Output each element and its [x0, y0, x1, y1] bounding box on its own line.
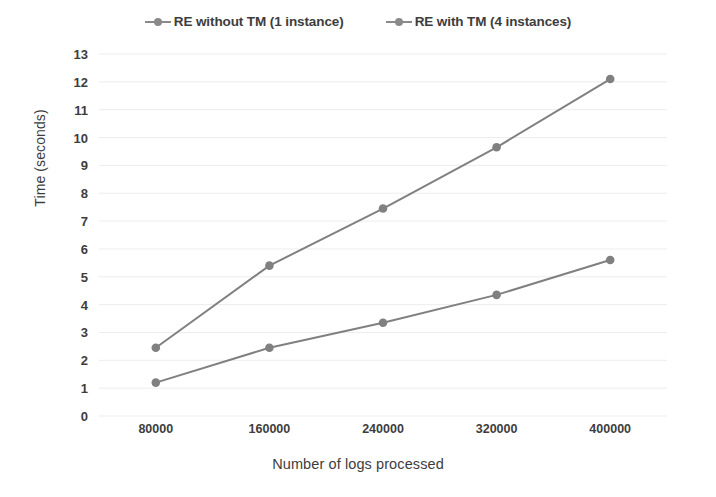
data-point-marker: [606, 75, 615, 84]
data-point-marker: [152, 378, 161, 387]
x-tick-label: 320000: [476, 422, 518, 436]
data-point-marker: [265, 343, 274, 352]
x-tick-label: 160000: [249, 422, 291, 436]
data-point-marker: [606, 256, 615, 265]
plot-svg: [99, 54, 667, 416]
data-point-marker: [379, 318, 388, 327]
series-2: [152, 256, 615, 387]
data-point-marker: [265, 261, 274, 270]
x-tick-label: 80000: [138, 422, 173, 436]
gridlines: [99, 54, 667, 416]
data-point-marker: [379, 204, 388, 213]
x-axis-title: Number of logs processed: [0, 456, 716, 472]
series-line: [156, 79, 610, 348]
x-tick-label: 240000: [362, 422, 404, 436]
line-chart: RE without TM (1 instance) RE with TM (4…: [0, 0, 716, 497]
series-1: [152, 75, 615, 352]
plot-area: [99, 54, 667, 416]
data-point-marker: [152, 343, 161, 352]
x-tick-label: 400000: [589, 422, 631, 436]
data-point-marker: [492, 143, 501, 152]
data-point-marker: [492, 291, 501, 300]
